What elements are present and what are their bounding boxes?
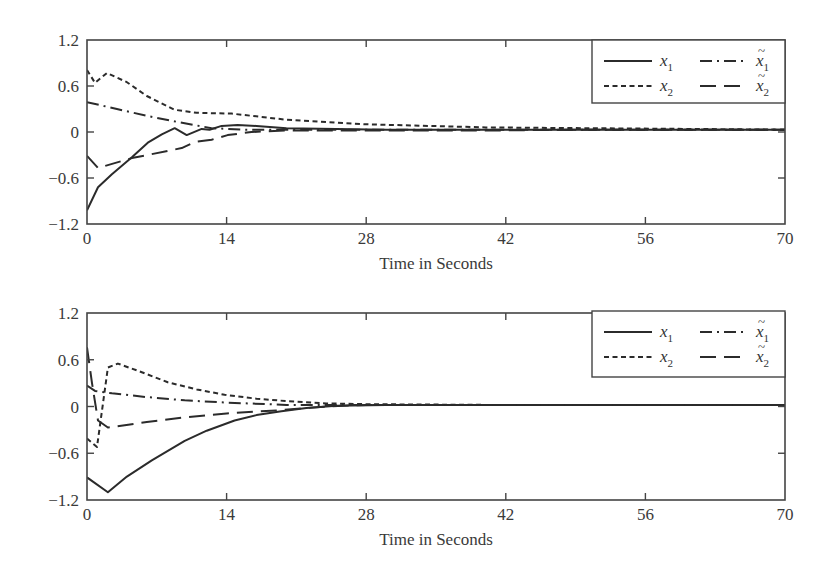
figure: 01428425670Time in Seconds1.20.60−0.6−1.… — [0, 0, 835, 587]
legend: x1x1~x2x2~ — [592, 40, 785, 103]
y-tick-label: 0 — [71, 398, 80, 417]
y-tick-label: −1.2 — [48, 491, 79, 510]
x-tick-label: 70 — [777, 505, 794, 524]
tilde-accent: ~ — [758, 68, 765, 83]
x-tick-label: 0 — [83, 229, 92, 248]
y-tick-label: 0.6 — [58, 351, 79, 370]
series-line-x1 — [87, 405, 785, 492]
y-tick-label: 1.2 — [58, 31, 79, 50]
x-tick-label: 0 — [83, 505, 92, 524]
y-tick-label: −0.6 — [48, 444, 79, 463]
x-tick-label: 56 — [637, 505, 654, 524]
tilde-accent: ~ — [758, 339, 765, 354]
y-tick-label: −0.6 — [48, 169, 79, 188]
x-tick-label: 42 — [497, 505, 514, 524]
legend: x1x1~x2x2~ — [592, 311, 785, 377]
x-tick-label: 28 — [358, 229, 375, 248]
x-tick-label: 14 — [218, 505, 236, 524]
x-tick-label: 14 — [218, 229, 236, 248]
legend-box — [592, 311, 785, 377]
chart-panel-top: 01428425670Time in Seconds1.20.60−0.6−1.… — [48, 31, 793, 273]
series-line-x1 — [87, 125, 785, 210]
series-line-x2-tilde — [87, 130, 785, 168]
y-tick-label: 1.2 — [58, 304, 79, 323]
tilde-accent: ~ — [758, 43, 765, 58]
y-tick-label: 0.6 — [58, 77, 79, 96]
tilde-accent: ~ — [758, 314, 765, 329]
x-tick-label: 28 — [358, 505, 375, 524]
x-axis-label: Time in Seconds — [379, 254, 493, 273]
x-tick-label: 56 — [637, 229, 654, 248]
x-tick-label: 70 — [777, 229, 794, 248]
x-axis-label: Time in Seconds — [379, 530, 493, 549]
y-tick-label: −1.2 — [48, 215, 79, 234]
x-tick-label: 42 — [497, 229, 514, 248]
chart-panel-bottom: 01428425670Time in Seconds1.20.60−0.6−1.… — [48, 304, 793, 549]
y-tick-label: 0 — [71, 123, 80, 142]
